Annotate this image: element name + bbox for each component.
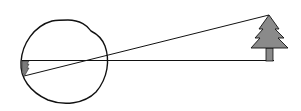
tree-trunk xyxy=(266,48,273,61)
eye-outline xyxy=(21,20,108,103)
retinal-image-icon xyxy=(22,61,29,75)
tree-crown xyxy=(251,15,288,48)
diagram-svg xyxy=(0,0,301,111)
diagonal-ray xyxy=(24,15,269,76)
eye-diagram xyxy=(0,0,301,111)
tree-icon xyxy=(251,15,288,61)
